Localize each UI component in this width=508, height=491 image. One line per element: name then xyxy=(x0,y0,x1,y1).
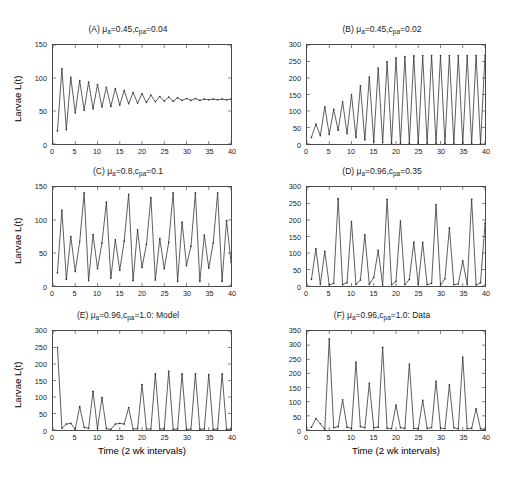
y-tick-label: 350 xyxy=(269,326,301,335)
c-pa-symbol: cpa xyxy=(379,310,390,320)
y-tick-label: 200 xyxy=(269,369,301,378)
x-tick-label: 35 xyxy=(459,433,467,442)
panel-label: (F) xyxy=(334,310,347,320)
x-tick-label: 40 xyxy=(482,433,490,442)
x-tick-label: 30 xyxy=(437,433,445,442)
y-tick-label: 300 xyxy=(269,340,301,349)
y-tick-label: 50 xyxy=(269,412,301,421)
y-tick-label: 100 xyxy=(269,398,301,407)
x-tick-label: 25 xyxy=(414,433,422,442)
panel-title-f: (F) μa=0.96,cpa=1.0: Data xyxy=(272,310,492,323)
x-tick-label: 0 xyxy=(304,433,308,442)
x-tick-label: 5 xyxy=(326,433,330,442)
plot-area-f xyxy=(306,330,486,431)
c-pa-value: =1.0: Data xyxy=(391,310,430,320)
mu-a-value: =0.96, xyxy=(355,310,379,320)
x-tick-label: 10 xyxy=(347,433,355,442)
x-tick-label: 20 xyxy=(392,433,400,442)
series-line-f xyxy=(307,331,485,430)
x-axis-label: Time (2 wk intervals) xyxy=(306,445,486,456)
panel-f: (F) μa=0.96,cpa=1.0: Data050100150200250… xyxy=(0,0,508,491)
y-tick-label: 0 xyxy=(269,427,301,436)
x-tick-label: 15 xyxy=(369,433,377,442)
y-tick-label: 150 xyxy=(269,383,301,392)
data-polyline xyxy=(311,339,485,430)
axis-ticks xyxy=(307,331,485,430)
figure-panel-grid: (A) μa=0.45,cpa=0.0405010015005101520253… xyxy=(0,0,508,491)
y-tick-label: 250 xyxy=(269,354,301,363)
